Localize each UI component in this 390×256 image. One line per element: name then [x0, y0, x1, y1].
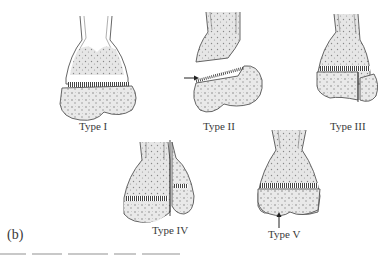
- type-v-illustration: [258, 130, 320, 228]
- type-i-label: Type I: [79, 120, 107, 132]
- panel-label: (b): [7, 227, 23, 243]
- type-ii-label: Type II: [203, 120, 235, 132]
- type-ii-illustration: [184, 12, 262, 112]
- type-i-illustration: [60, 16, 136, 120]
- type-iii-illustration: [317, 14, 378, 102]
- type-iv-illustration: [124, 140, 194, 222]
- type-iii-label: Type III: [330, 120, 366, 132]
- type-v-label: Type V: [268, 228, 300, 240]
- type-iv-label: Type IV: [152, 224, 188, 236]
- cut-off-caption: [0, 250, 200, 256]
